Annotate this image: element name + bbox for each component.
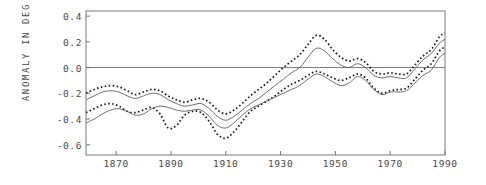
- temperature-anomaly-chart: ANOMALY IN DEG C 0.40.20.0-0.2-0.4-0.6 1…: [0, 0, 486, 185]
- axis-tick-marks: [86, 16, 445, 155]
- data-series-group: [86, 33, 445, 138]
- plot-frame: [86, 11, 445, 155]
- plot-area: [0, 0, 486, 185]
- series-lower-solid: [86, 53, 445, 128]
- series-upper-solid: [86, 39, 445, 120]
